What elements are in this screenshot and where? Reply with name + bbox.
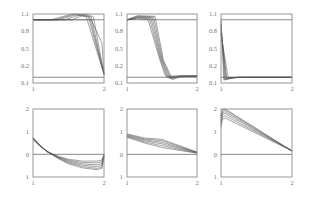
- x-tick-label: 2: [195, 179, 198, 186]
- y-tick-label: 0.8: [115, 27, 123, 34]
- series-line: [221, 31, 292, 78]
- y-tick-label: 1: [214, 173, 217, 180]
- x-tick-label: 2: [195, 85, 198, 92]
- y-tick-label: 1: [120, 128, 123, 135]
- panels: 1.10.80.50.20.1121.10.80.50.20.1121.10.8…: [21, 10, 294, 186]
- series-line: [221, 28, 292, 78]
- panel-bottom-middle: 210112: [120, 105, 199, 186]
- y-tick-label: 0.5: [21, 45, 29, 52]
- x-tick-label: 2: [102, 85, 105, 92]
- x-tick-label: 2: [102, 179, 105, 186]
- series-line: [221, 26, 292, 80]
- x-tick-label: 1: [125, 179, 128, 186]
- y-tick-label: 0: [26, 151, 29, 158]
- y-tick-label: 1.1: [209, 10, 217, 17]
- series-line: [221, 23, 292, 80]
- y-tick-label: 1: [120, 173, 123, 180]
- y-tick-label: 0: [120, 151, 123, 158]
- panel-top-right: 1.10.80.50.20.112: [209, 10, 294, 92]
- y-tick-label: 2: [214, 105, 217, 112]
- series-line: [221, 20, 292, 80]
- panel-top-left: 1.10.80.50.20.112: [21, 10, 106, 92]
- y-tick-label: 1.1: [115, 10, 123, 17]
- y-tick-label: 1.1: [21, 10, 29, 17]
- axes-frame: [221, 14, 292, 83]
- x-tick-label: 2: [290, 85, 293, 92]
- y-tick-label: 1: [214, 128, 217, 135]
- series-line: [127, 18, 197, 78]
- series-line: [33, 138, 104, 166]
- series-line: [221, 34, 292, 77]
- axes-frame: [127, 109, 197, 177]
- y-tick-label: 1: [26, 128, 29, 135]
- panel-top-middle: 1.10.80.50.20.112: [115, 10, 199, 92]
- x-tick-label: 1: [219, 179, 222, 186]
- series-line: [33, 14, 104, 74]
- series-line: [127, 17, 197, 79]
- y-tick-label: 0.2: [115, 62, 123, 69]
- series-line: [33, 14, 104, 74]
- series-line: [127, 136, 197, 153]
- series-line: [221, 118, 292, 151]
- y-tick-label: 0.1: [21, 79, 29, 86]
- y-tick-label: 0.8: [21, 27, 29, 34]
- series-line: [33, 14, 104, 74]
- y-tick-label: 0.8: [209, 27, 217, 34]
- series-line: [33, 14, 104, 74]
- axes-frame: [127, 14, 197, 83]
- panel-bottom-right: 210112: [214, 105, 294, 186]
- series-line: [33, 140, 104, 162]
- y-tick-label: 0.5: [209, 45, 217, 52]
- y-tick-label: 2: [26, 105, 29, 112]
- series-line: [127, 16, 197, 79]
- x-tick-label: 1: [125, 85, 128, 92]
- x-tick-label: 1: [31, 85, 34, 92]
- y-tick-label: 0: [214, 151, 217, 158]
- y-tick-label: 0.1: [209, 79, 217, 86]
- y-tick-label: 0.5: [115, 45, 123, 52]
- figure-grid: 1.10.80.50.20.1121.10.80.50.20.1121.10.8…: [0, 0, 309, 197]
- x-tick-label: 1: [31, 179, 34, 186]
- axes-frame: [33, 109, 104, 177]
- y-tick-label: 0.1: [115, 79, 123, 86]
- x-tick-label: 2: [290, 179, 293, 186]
- x-tick-label: 1: [219, 85, 222, 92]
- y-tick-label: 0.2: [209, 62, 217, 69]
- panel-bottom-left: 210112: [26, 105, 106, 186]
- series-line: [127, 19, 197, 77]
- series-line: [33, 14, 104, 74]
- y-tick-label: 2: [120, 105, 123, 112]
- y-tick-label: 0.2: [21, 62, 29, 69]
- y-tick-label: 1: [26, 173, 29, 180]
- series-line: [33, 20, 104, 75]
- series-line: [127, 18, 197, 77]
- series-line: [127, 16, 197, 80]
